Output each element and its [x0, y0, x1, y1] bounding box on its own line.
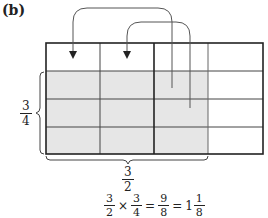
equals-sign: = — [172, 199, 182, 213]
fraction-a: 3 2 — [104, 193, 115, 218]
fraction-product: 9 8 — [158, 193, 169, 218]
equals-sign: = — [145, 199, 155, 213]
bottom-brace — [46, 156, 208, 164]
denominator: 4 — [131, 207, 142, 218]
denominator: 8 — [194, 207, 205, 218]
fraction-mixed: 1 8 — [194, 193, 205, 218]
fraction-b: 3 4 — [131, 193, 142, 218]
left-brace — [36, 72, 44, 154]
area-model-diagram — [0, 0, 268, 218]
numerator: 3 — [122, 166, 134, 178]
shaded-region — [46, 71, 208, 154]
denominator: 2 — [122, 181, 134, 193]
bottom-brace-label: 3 2 — [122, 166, 134, 193]
left-brace-label: 3 4 — [20, 100, 32, 127]
mixed-whole: 1 — [185, 199, 193, 213]
numerator: 1 — [194, 193, 205, 204]
denominator: 8 — [158, 207, 169, 218]
denominator: 4 — [20, 115, 32, 127]
numerator: 3 — [131, 193, 142, 204]
equation: 3 2 × 3 4 = 9 8 = 1 1 8 — [104, 193, 205, 218]
numerator: 3 — [104, 193, 115, 204]
numerator: 9 — [158, 193, 169, 204]
denominator: 2 — [104, 207, 115, 218]
numerator: 3 — [20, 100, 32, 112]
times-sign: × — [118, 199, 128, 213]
